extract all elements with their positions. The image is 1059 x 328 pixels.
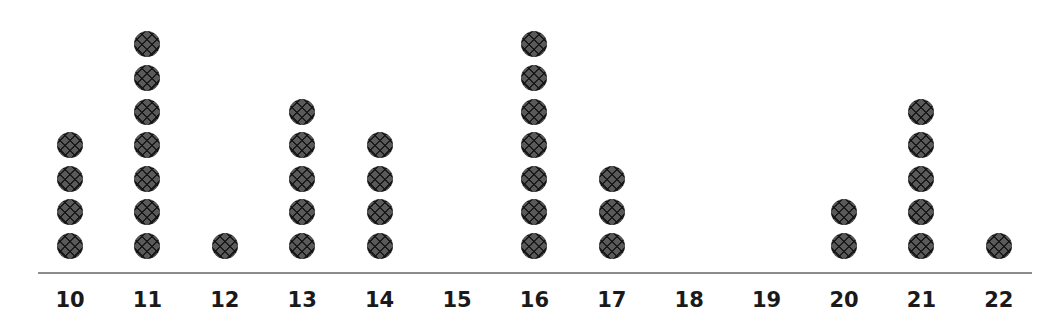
x-tick-label: 17 (592, 288, 632, 312)
data-dot (134, 31, 160, 57)
data-dot (289, 166, 315, 192)
x-tick-label: 14 (360, 288, 400, 312)
data-dot (57, 199, 83, 225)
data-dot (134, 65, 160, 91)
data-dot (212, 233, 238, 259)
data-dot (599, 166, 625, 192)
x-tick-label: 19 (747, 288, 787, 312)
x-tick-label: 12 (205, 288, 245, 312)
x-tick-label: 10 (50, 288, 90, 312)
x-tick-label: 21 (901, 288, 941, 312)
x-tick-label: 18 (669, 288, 709, 312)
data-dot (134, 199, 160, 225)
x-tick-label: 13 (282, 288, 322, 312)
data-dot (521, 99, 547, 125)
data-dot (908, 132, 934, 158)
data-dot (908, 233, 934, 259)
data-dot (908, 166, 934, 192)
data-dot (908, 99, 934, 125)
dot-plot: 10111213141516171819202122 (0, 0, 1059, 328)
data-dot (57, 132, 83, 158)
data-dot (521, 132, 547, 158)
data-dot (289, 233, 315, 259)
data-dot (289, 132, 315, 158)
data-dot (908, 199, 934, 225)
data-dot (134, 99, 160, 125)
x-tick-label: 15 (437, 288, 477, 312)
data-dot (134, 132, 160, 158)
x-tick-label: 20 (824, 288, 864, 312)
data-dot (134, 166, 160, 192)
x-axis-line (38, 272, 1032, 274)
data-dot (367, 166, 393, 192)
data-dot (831, 233, 857, 259)
data-dot (521, 233, 547, 259)
data-dot (521, 31, 547, 57)
data-dot (367, 199, 393, 225)
data-dot (367, 132, 393, 158)
data-dot (289, 99, 315, 125)
x-tick-label: 22 (979, 288, 1019, 312)
data-dot (134, 233, 160, 259)
data-dot (57, 166, 83, 192)
data-dot (599, 199, 625, 225)
data-dot (367, 233, 393, 259)
x-tick-label: 11 (127, 288, 167, 312)
data-dot (831, 199, 857, 225)
data-dot (289, 199, 315, 225)
x-tick-label: 16 (514, 288, 554, 312)
data-dot (521, 166, 547, 192)
data-dot (986, 233, 1012, 259)
data-dot (521, 199, 547, 225)
data-dot (57, 233, 83, 259)
data-dot (599, 233, 625, 259)
data-dot (521, 65, 547, 91)
